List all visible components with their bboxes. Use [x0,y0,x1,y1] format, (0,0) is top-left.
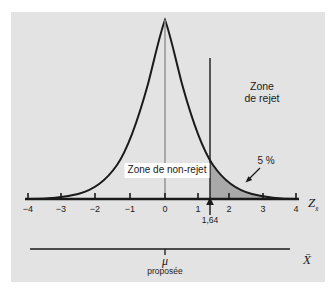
zone-de-rejet-line1: Zone [250,80,274,92]
zone-de-rejet-label: Zone de rejet [244,80,279,104]
mu-caption-label: proposée [147,267,182,277]
z-tick-label-0: 0 [162,204,167,214]
zone-de-non-rejet-label: Zone de non-rejet [125,163,210,178]
z-tick-label-minus1: −1 [125,204,135,214]
zone-de-rejet-line2: de rejet [244,92,279,104]
z-axis-sublabel-text: x̄ [315,205,318,213]
z-tick-label-1: 1 [195,204,200,214]
z-tick-label-minus4: −4 [23,204,33,214]
percent-label: 5 % [257,155,274,167]
z-tick-label-2: 2 [226,204,231,214]
critical-value-label: 1,64 [202,216,219,226]
z-axis-label: Zx̄ [308,196,318,213]
z-tick-label-minus2: −2 [90,204,100,214]
percent-leader-arrow [246,168,261,183]
statistics-figure: ,, −4 −3 −2 −1 0 1 2 3 4 Zx̄ 1,64 Zone d… [0,0,336,299]
xbar-axis-label: X̄ [303,253,311,268]
z-tick-label-3: 3 [260,204,265,214]
z-tick-label-4: 4 [293,204,298,214]
z-tick-label-minus3: −3 [56,204,66,214]
